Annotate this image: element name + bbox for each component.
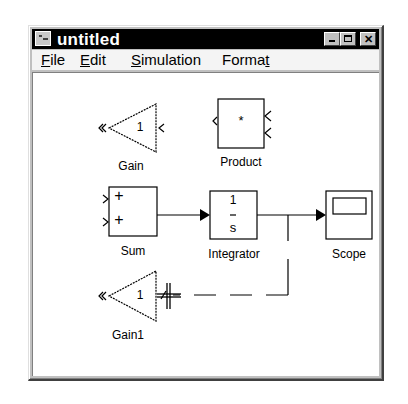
menu-format[interactable]: Format <box>222 51 270 68</box>
scope-block[interactable] <box>326 191 372 239</box>
integrator-numerator: 1 <box>230 193 237 207</box>
menu-simulation[interactable]: Simulation <box>131 51 201 68</box>
sum-sign-1: + <box>114 187 123 205</box>
menu-edit-rest: dit <box>90 51 106 68</box>
maximize-button[interactable] <box>340 32 356 46</box>
menu-format-rest: Forma <box>222 51 265 68</box>
maximize-icon <box>344 35 352 42</box>
menu-format-mnemonic: t <box>265 51 269 68</box>
menu-simulation-mnemonic: S <box>131 51 141 68</box>
integrator-input-arrow <box>200 209 210 221</box>
block-diagram <box>33 73 381 373</box>
menu-edit[interactable]: Edit <box>80 51 106 68</box>
menu-bar: File Edit Simulation Format <box>32 50 379 70</box>
menu-file-rest: ile <box>50 51 65 68</box>
minimize-icon <box>329 40 335 42</box>
scope-label[interactable]: Scope <box>332 247 366 261</box>
gain1-value: 1 <box>137 288 144 302</box>
sum-sign-2: + <box>114 211 123 229</box>
close-button[interactable]: ✕ <box>360 32 376 46</box>
scope-input-arrow <box>316 209 326 221</box>
window-title: untitled <box>57 30 120 50</box>
gain1-label[interactable]: Gain1 <box>112 328 144 342</box>
menu-simulation-rest: imulation <box>141 51 201 68</box>
title-bar[interactable]: untitled ✕ <box>32 29 379 49</box>
sum-block[interactable] <box>103 187 157 236</box>
gain-value: 1 <box>137 120 144 134</box>
product-label[interactable]: Product <box>220 155 261 169</box>
model-canvas[interactable]: 1 * + + 1 s 1 Gain Product Sum Integrato… <box>32 72 379 376</box>
menu-edit-mnemonic: E <box>80 51 90 68</box>
model-window: untitled ✕ File Edit Simulation Format <box>28 25 384 381</box>
sum-label[interactable]: Sum <box>121 244 146 258</box>
menu-file[interactable]: File <box>41 51 65 68</box>
gain-block[interactable] <box>99 104 164 152</box>
minimize-button[interactable] <box>324 32 340 46</box>
simulink-model-icon <box>35 31 51 46</box>
product-symbol: * <box>238 113 243 128</box>
menu-file-mnemonic: F <box>41 51 50 68</box>
integrator-denominator: s <box>230 220 237 235</box>
close-icon: ✕ <box>364 33 373 45</box>
crosshair-cursor-icon <box>157 283 181 309</box>
gain1-block[interactable] <box>99 271 156 321</box>
integrator-label[interactable]: Integrator <box>208 247 259 261</box>
gain-label[interactable]: Gain <box>118 159 143 173</box>
